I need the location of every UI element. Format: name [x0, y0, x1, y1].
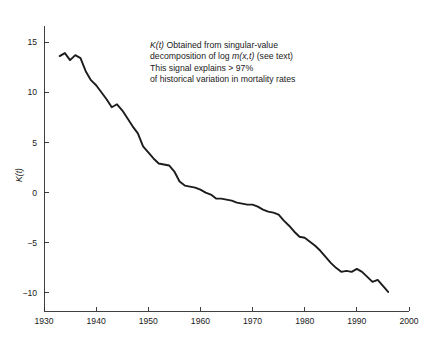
- annotation-line-2: decomposition of log m(x,t) (see text): [150, 51, 355, 62]
- annotation-line-1: K(t) Obtained from singular-value: [150, 40, 355, 51]
- annotation-line-4: of historical variation in mortality rat…: [150, 74, 355, 85]
- x-tick-label: 1990: [347, 316, 366, 326]
- chart-figure: 151050−5−1019301940195019601970198019902…: [0, 0, 438, 344]
- y-tick-label: −5: [27, 238, 37, 248]
- annotation-line-3: This signal explains > 97%: [150, 63, 355, 74]
- annotation-mxt-symbol: m(x,t): [232, 51, 254, 61]
- annotation-line-2-pre: decomposition of log: [150, 51, 232, 61]
- x-tick-label: 1980: [295, 316, 314, 326]
- y-tick-label: 0: [32, 188, 37, 198]
- x-tick-label: 1960: [191, 316, 210, 326]
- y-tick-label: 15: [27, 37, 37, 47]
- data-series: [60, 53, 389, 292]
- y-tick-label: 10: [27, 87, 37, 97]
- y-tick-label: −10: [22, 288, 37, 298]
- annotation-line-1-rest: Obtained from singular-value: [164, 40, 278, 50]
- annotation-line-2-post: (see text): [254, 51, 293, 61]
- x-tick-label: 1950: [139, 316, 158, 326]
- y-axis-title: K(t): [14, 168, 24, 182]
- y-tick-label: 5: [32, 138, 37, 148]
- x-tick-label: 1940: [87, 316, 106, 326]
- y-axis-title-text: K(t): [14, 168, 24, 182]
- x-tick-label: 2000: [399, 316, 418, 326]
- x-tick-label: 1930: [34, 316, 53, 326]
- chart-annotation: K(t) Obtained from singular-value decomp…: [150, 40, 355, 86]
- annotation-kt-symbol: K(t): [150, 40, 164, 50]
- data-line-kt: [60, 53, 389, 292]
- x-tick-label: 1970: [243, 316, 262, 326]
